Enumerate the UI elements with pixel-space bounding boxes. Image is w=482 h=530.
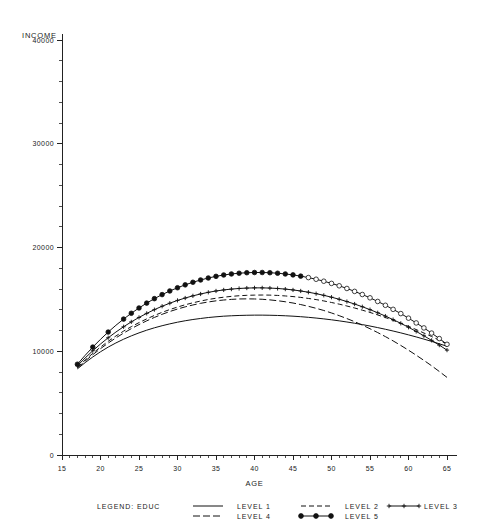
series-marker-circle — [245, 270, 250, 275]
y-tick-label: 30000 — [33, 140, 54, 147]
series-marker-circle — [183, 283, 188, 288]
legend-label-4: LEVEL 4 — [237, 513, 271, 520]
legend-label-2: LEVEL 2 — [345, 503, 379, 510]
series-marker-circle — [175, 285, 180, 290]
series-marker-circle — [129, 311, 134, 316]
series-marker-circle — [91, 345, 96, 350]
x-tick-label: 50 — [327, 465, 336, 472]
legend-label-5: LEVEL 5 — [345, 513, 379, 520]
x-tick-label: 25 — [135, 465, 144, 472]
series-marker-circle — [298, 274, 303, 279]
series-marker-circle — [121, 317, 126, 322]
series-marker-circle — [352, 289, 357, 294]
y-tick-label: 0 — [50, 452, 54, 459]
series-marker-circle — [414, 321, 419, 326]
legend: LEGEND: EDUCLEVEL 1LEVEL 4LEVEL 2LEVEL 5… — [97, 503, 458, 520]
series-marker-circle — [137, 306, 142, 311]
y-tick-label: 10000 — [33, 348, 54, 355]
legend-marker-circle — [299, 514, 304, 519]
series-marker-circle — [144, 301, 149, 306]
y-tick-label: 20000 — [33, 244, 54, 251]
x-tick-label: 30 — [173, 465, 182, 472]
chart-canvas: 010000200003000040000INCOME1520253035404… — [0, 0, 482, 530]
series-marker-circle — [160, 292, 165, 297]
series-marker-circle — [214, 274, 219, 279]
series-marker-circle — [268, 270, 273, 275]
x-tick-label: 65 — [443, 465, 452, 472]
series-marker-circle — [168, 289, 173, 294]
series-marker-circle — [383, 303, 388, 308]
x-tick-label: 45 — [289, 465, 298, 472]
income-by-age-chart: 010000200003000040000INCOME1520253035404… — [0, 0, 482, 530]
series-marker-circle — [152, 296, 157, 301]
series-marker-circle — [260, 270, 265, 275]
y-axis-title: INCOME — [22, 31, 57, 40]
series-marker-circle — [106, 330, 111, 335]
x-tick-label: 60 — [404, 465, 413, 472]
series-marker-circle — [406, 316, 411, 321]
series-marker-circle — [75, 362, 80, 367]
series-marker-circle — [391, 307, 396, 312]
x-tick-label: 40 — [250, 465, 259, 472]
series-marker-circle — [422, 326, 427, 331]
series-marker-circle — [314, 277, 319, 282]
series-marker-circle — [306, 275, 311, 280]
series-marker-circle — [337, 283, 342, 288]
series-marker-circle — [275, 271, 280, 276]
legend-marker-circle — [329, 514, 334, 519]
series-marker-circle — [329, 281, 334, 286]
series-marker-circle — [322, 279, 327, 284]
series-marker-circle — [198, 278, 203, 283]
series-group — [75, 270, 449, 377]
series-marker-circle — [360, 292, 365, 297]
series-marker-circle — [429, 331, 434, 336]
x-tick-label: 15 — [58, 465, 67, 472]
series-line-1 — [77, 315, 447, 369]
series-marker-circle — [375, 299, 380, 304]
series-marker-circle — [221, 273, 226, 278]
x-tick-label: 55 — [366, 465, 375, 472]
series-marker-circle — [252, 270, 257, 275]
x-tick-label: 20 — [96, 465, 105, 472]
legend-marker-circle — [314, 514, 319, 519]
series-marker-circle — [437, 336, 442, 341]
series-marker-circle — [229, 272, 234, 277]
series-marker-circle — [206, 276, 211, 281]
legend-label-3: LEVEL 3 — [424, 503, 458, 510]
legend-label-1: LEVEL 1 — [237, 503, 271, 510]
legend-title: LEGEND: EDUC — [97, 503, 160, 510]
x-tick-label: 35 — [212, 465, 221, 472]
series-marker-circle — [191, 280, 196, 285]
series-marker-circle — [291, 273, 296, 278]
x-axis-title: AGE — [245, 479, 263, 488]
series-marker-circle — [345, 286, 350, 291]
series-marker-circle — [399, 311, 404, 316]
series-marker-circle — [237, 271, 242, 276]
series-marker-circle — [283, 272, 288, 277]
series-marker-circle — [445, 342, 450, 347]
series-marker-circle — [368, 296, 373, 301]
